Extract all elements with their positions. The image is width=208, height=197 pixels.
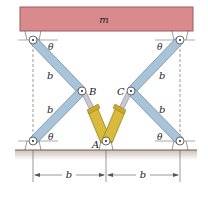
theta-top-right: θ [157, 42, 163, 52]
pin-bottom-left [29, 137, 37, 145]
point-C-label: C [117, 86, 125, 97]
theta-bottom-left: θ [48, 132, 54, 142]
mass-block: m [20, 7, 193, 31]
theta-top-left: θ [48, 42, 54, 52]
linkage-diagram: m [0, 0, 208, 197]
length-top-left: b [47, 70, 53, 81]
pin-top-right [176, 36, 184, 44]
theta-bottom-right: θ [157, 132, 163, 142]
pin-bottom-right [176, 137, 184, 145]
length-top-right: b [159, 70, 165, 81]
dimension-right: b [140, 169, 146, 180]
point-B-label: B [88, 86, 96, 97]
mass-label: m [99, 14, 108, 25]
link-top-left [30, 37, 85, 94]
dimension-left: b [66, 169, 72, 180]
link-bottom-right [128, 88, 183, 144]
pin-top-left [29, 36, 37, 44]
link-bottom-left [30, 88, 85, 144]
link-top-right [128, 37, 183, 94]
length-bottom-left: b [47, 104, 53, 115]
hydraulic-cylinders [81, 90, 132, 143]
links [30, 37, 183, 144]
point-A-label: A [91, 139, 99, 150]
pin-C [127, 87, 135, 95]
pin-B [78, 87, 86, 95]
length-bottom-right: b [159, 104, 165, 115]
pin-A [102, 137, 110, 145]
